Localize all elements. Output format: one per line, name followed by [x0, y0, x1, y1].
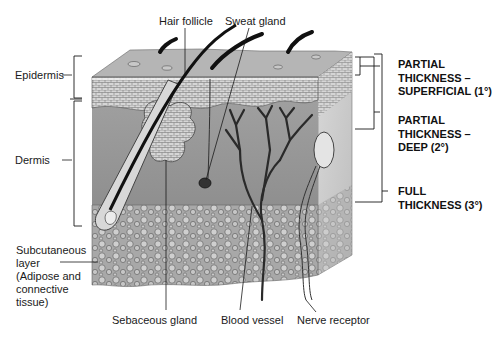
label-subcutaneous-line-5: tissue) — [16, 296, 86, 309]
burn-depth-superficial-line-3: SUPERFICIAL (1°) — [398, 85, 492, 99]
burn-depth-full: FULL THICKNESS (3°) — [398, 185, 482, 212]
burn-depth-superficial-line-1: PARTIAL — [398, 58, 492, 72]
label-nerve-receptor: Nerve receptor — [297, 314, 370, 327]
label-subcutaneous-line-1: Subcutaneous — [16, 244, 86, 257]
burn-depth-superficial: PARTIAL THICKNESS – SUPERFICIAL (1°) — [398, 58, 492, 99]
burn-depth-deep-line-1: PARTIAL — [398, 114, 471, 128]
burn-depth-full-line-2: THICKNESS (3°) — [398, 199, 482, 213]
label-subcutaneous-line-4: connective — [16, 283, 86, 296]
label-epidermis: Epidermis — [15, 69, 64, 82]
skin-cross-section-diagram: Hair follicle Sweat gland Epidermis Derm… — [0, 0, 501, 339]
label-subcutaneous-layer: Subcutaneous layer (Adipose and connecti… — [16, 244, 86, 309]
label-hair-follicle: Hair follicle — [159, 15, 213, 28]
label-dermis: Dermis — [15, 154, 50, 167]
burn-depth-full-line-1: FULL — [398, 185, 482, 199]
burn-depth-superficial-line-2: THICKNESS – — [398, 72, 492, 86]
burn-depth-deep-line-2: THICKNESS – — [398, 128, 471, 142]
label-sweat-gland: Sweat gland — [225, 15, 286, 28]
label-subcutaneous-line-3: (Adipose and — [16, 270, 86, 283]
burn-depth-deep-line-3: DEEP (2°) — [398, 141, 471, 155]
burn-depth-deep: PARTIAL THICKNESS – DEEP (2°) — [398, 114, 471, 155]
label-subcutaneous-line-2: layer — [16, 257, 86, 270]
label-sebaceous-gland: Sebaceous gland — [112, 314, 197, 327]
label-blood-vessel: Blood vessel — [221, 314, 283, 327]
